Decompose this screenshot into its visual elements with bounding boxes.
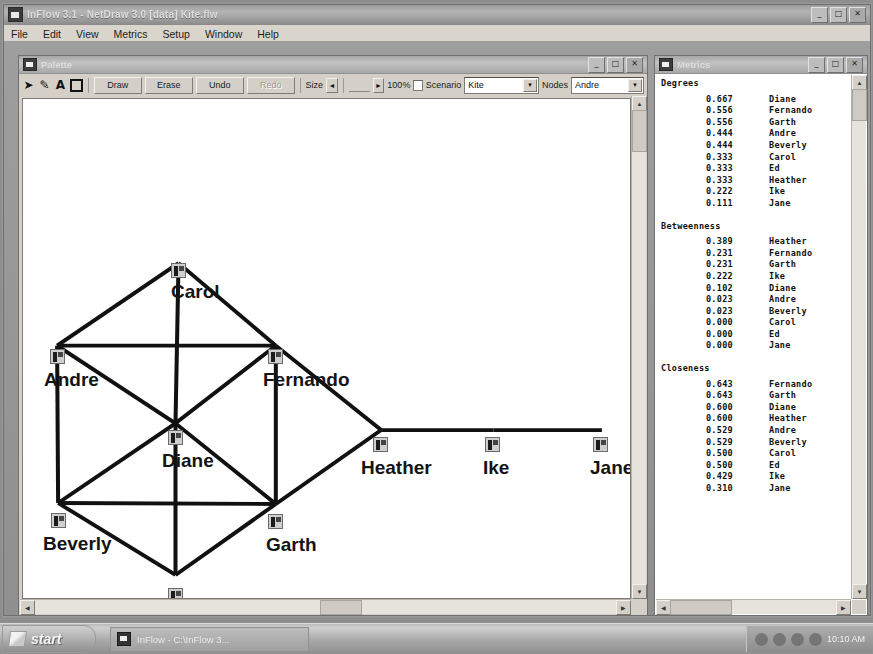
network-edge[interactable] [58,503,276,504]
size-decrease-button[interactable]: ◄ [326,78,338,93]
pointer-icon[interactable]: ➤ [22,77,35,94]
network-node-diane[interactable] [168,430,183,445]
metrics-scroll-up-button[interactable]: ▲ [852,75,867,90]
metrics-vertical-scrollbar[interactable]: ▲ ▼ [851,75,866,599]
metrics-window-buttons: _ □ ✕ [808,57,865,73]
metrics-value: 0.500 [661,460,733,472]
metrics-row: 0.023Andre [661,294,849,306]
canvas-horizontal-scrollbar[interactable]: ◀ ▶ [20,599,631,614]
metrics-body: Degrees0.667Diane0.556Fernando0.556Garth… [655,73,867,615]
metrics-row: 0.231Fernando [661,248,849,260]
tray-icon-2[interactable] [773,633,786,646]
metrics-node-name: Garth [733,390,796,402]
application-window: InFlow 3.1 - NetDraw 3.0 [data] Kite.flw… [3,4,871,616]
metrics-node-name: Carol [733,448,796,460]
chevron-down-icon-nodes[interactable]: ▼ [628,79,642,92]
scroll-down-button[interactable]: ▼ [632,584,647,599]
tray-icon-4[interactable] [809,633,822,646]
app-maximize-button[interactable]: □ [830,7,847,23]
metrics-row: 0.333Heather [661,175,849,187]
network-node-jane[interactable] [593,437,608,452]
horizontal-scroll-thumb[interactable] [320,600,362,615]
app-close-button[interactable]: ✕ [849,7,866,23]
metrics-value: 0.231 [661,259,733,271]
metrics-maximize-button[interactable]: □ [827,57,844,73]
metrics-node-name: Andre [733,294,796,306]
menu-item-metrics[interactable]: Metrics [112,27,150,41]
network-edge[interactable] [57,263,178,346]
metrics-horizontal-scroll-thumb[interactable] [670,600,732,615]
nodes-value: Andre [575,80,599,90]
metrics-node-name: Andre [733,128,796,140]
metrics-node-name: Ike [733,271,785,283]
start-button[interactable]: start [2,625,96,653]
network-node-fernando[interactable] [268,349,283,364]
metrics-value: 0.102 [661,283,733,295]
text-icon[interactable]: A [54,77,67,94]
metrics-row: 0.222Ike [661,271,849,283]
network-node-beverly[interactable] [51,513,66,528]
metrics-section-heading: Closeness [661,363,849,375]
metrics-scroll-down-button[interactable]: ▼ [852,584,867,599]
scroll-left-button[interactable]: ◀ [20,600,35,615]
scroll-right-button[interactable]: ▶ [616,600,631,615]
metrics-row: 0.600Diane [661,402,849,414]
tray-icon-3[interactable] [791,633,804,646]
network-node-ed[interactable] [168,588,183,599]
network-node-ike[interactable] [485,437,500,452]
erase-button[interactable]: Erase [145,77,193,94]
toolbar-checkbox[interactable] [413,80,422,91]
palette-close-button[interactable]: ✕ [626,57,643,73]
pencil-icon[interactable]: ✎ [38,77,51,94]
network-node-heather[interactable] [373,437,388,452]
network-edge[interactable] [176,504,276,575]
metrics-node-name: Heather [733,175,807,187]
tray-icon-1[interactable] [755,633,768,646]
taskbar-item-inflow[interactable]: InFlow - C:\InFlow 3... [110,627,309,652]
canvas-vertical-scrollbar[interactable]: ▲ ▼ [631,96,646,599]
scroll-up-button[interactable]: ▲ [632,96,647,111]
metrics-node-name: Heather [733,236,807,248]
vertical-scroll-thumb[interactable] [632,110,647,152]
metrics-row: 0.102Diane [661,283,849,295]
network-node-andre[interactable] [50,349,65,364]
zoom-increase-button[interactable]: ► [373,78,385,93]
network-canvas[interactable]: CarolAndreFernandoDianeBeverlyGarthEdHea… [22,98,631,599]
network-edge[interactable] [58,423,175,503]
metrics-close-button[interactable]: ✕ [846,57,863,73]
draw-button[interactable]: Draw [94,77,142,94]
metrics-value: 0.643 [661,390,733,402]
nodes-select[interactable]: Andre ▼ [571,77,644,94]
rect-icon[interactable] [70,77,83,94]
metrics-vertical-scroll-thumb[interactable] [852,89,867,121]
zoom-slider[interactable] [349,78,370,92]
metrics-horizontal-scrollbar[interactable]: ◀ ▶ [656,599,851,614]
palette-minimize-button[interactable]: _ [588,57,605,73]
app-minimize-button[interactable]: _ [811,7,828,23]
network-node-garth[interactable] [268,514,283,529]
undo-button[interactable]: Undo [196,77,244,94]
menu-item-edit[interactable]: Edit [41,27,63,41]
network-node-label-diane: Diane [162,450,214,472]
chevron-down-icon[interactable]: ▼ [523,79,537,92]
scenario-select[interactable]: Kite ▼ [464,77,539,94]
metrics-scroll-left-button[interactable]: ◀ [656,600,671,615]
network-node-label-jane: Jane [590,457,631,479]
metrics-title-bar[interactable]: Metrics _ □ ✕ [655,56,867,74]
menu-item-help[interactable]: Help [255,27,281,41]
app-title-bar[interactable]: InFlow 3.1 - NetDraw 3.0 [data] Kite.flw… [4,5,870,25]
palette-title-bar[interactable]: Palette _ □ ✕ [19,56,647,74]
network-edge[interactable] [176,346,276,424]
metrics-minimize-button[interactable]: _ [808,57,825,73]
metrics-scroll-right-button[interactable]: ▶ [836,600,851,615]
menu-item-file[interactable]: File [9,27,30,41]
menu-item-window[interactable]: Window [203,27,244,41]
palette-maximize-button[interactable]: □ [607,57,624,73]
network-node-carol[interactable] [171,263,186,278]
metrics-value: 0.310 [661,483,733,495]
palette-window-buttons: _ □ ✕ [588,57,645,73]
network-edge[interactable] [179,263,276,346]
menu-item-view[interactable]: View [74,27,101,41]
metrics-node-name: Fernando [733,105,812,117]
menu-item-setup[interactable]: Setup [160,27,191,41]
